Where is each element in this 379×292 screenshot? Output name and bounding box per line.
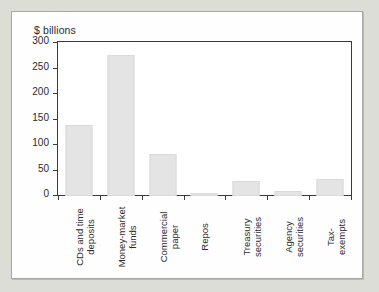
y-axis-tick-mark <box>53 170 57 171</box>
y-axis-tick-label: 300 <box>32 35 49 46</box>
y-axis-tick-label: 250 <box>32 61 49 72</box>
x-axis-tick-mark <box>309 196 310 200</box>
x-axis-label-slot: Agencysecurities <box>267 202 309 274</box>
x-axis-labels: CDs and timedepositsMoney-marketfundsCom… <box>58 202 351 274</box>
bar <box>149 154 176 196</box>
x-axis-label-slot: Tax-exempts <box>309 202 351 274</box>
chart-page: $ billions 050100150200250300 CDs and ti… <box>0 0 379 292</box>
x-axis-label-slot: Treasurysecurities <box>225 202 267 274</box>
y-axis-tick-label: 50 <box>38 163 49 174</box>
bar <box>233 181 260 196</box>
x-axis-tick-mark <box>351 196 352 200</box>
y-axis-tick-mark <box>53 195 57 196</box>
y-axis-tick-label: 200 <box>32 86 49 97</box>
bar-slot <box>142 42 184 196</box>
bar <box>65 125 92 196</box>
bar <box>191 193 218 196</box>
x-axis-label: Treasurysecurities <box>241 202 263 272</box>
x-axis-label: Commercialpaper <box>158 202 180 272</box>
x-axis-tick-mark <box>142 196 143 200</box>
y-axis-tick-mark <box>53 68 57 69</box>
x-axis-label: CDs and timedeposits <box>74 202 96 272</box>
x-axis-label-slot: Commercialpaper <box>142 202 184 274</box>
x-axis-label: Repos <box>199 202 210 272</box>
bars-container <box>58 42 351 196</box>
y-axis-tick-mark <box>53 42 57 43</box>
x-axis-label-slot: CDs and timedeposits <box>58 202 100 274</box>
y-axis-tick-label: 150 <box>32 112 49 123</box>
x-axis-tick-mark <box>100 196 101 200</box>
x-axis-tick-mark <box>225 196 226 200</box>
bar-slot <box>58 42 100 196</box>
y-axis-tick-mark <box>53 93 57 94</box>
x-axis-label: Tax-exempts <box>325 202 347 272</box>
bar-slot <box>184 42 226 196</box>
bar-slot <box>100 42 142 196</box>
bar-slot <box>309 42 351 196</box>
x-axis-label-slot: Repos <box>184 202 226 274</box>
bar <box>107 55 134 196</box>
bar-slot <box>225 42 267 196</box>
y-axis-tick-mark <box>53 119 57 120</box>
x-axis-label-slot: Money-marketfunds <box>100 202 142 274</box>
x-axis-tick-mark <box>184 196 185 200</box>
bar <box>275 191 302 196</box>
y-axis-tick-label: 0 <box>43 188 49 199</box>
x-axis-label: Agencysecurities <box>283 202 305 272</box>
bar <box>317 179 344 196</box>
chart-card: $ billions 050100150200250300 CDs and ti… <box>11 11 363 279</box>
x-axis-tick-mark <box>58 196 59 200</box>
x-axis-tick-mark <box>267 196 268 200</box>
bar-slot <box>267 42 309 196</box>
y-axis-tick-label: 100 <box>32 137 49 148</box>
bar-chart: $ billions 050100150200250300 CDs and ti… <box>12 12 362 278</box>
x-axis-label: Money-marketfunds <box>116 202 138 272</box>
y-axis-tick-mark <box>53 144 57 145</box>
